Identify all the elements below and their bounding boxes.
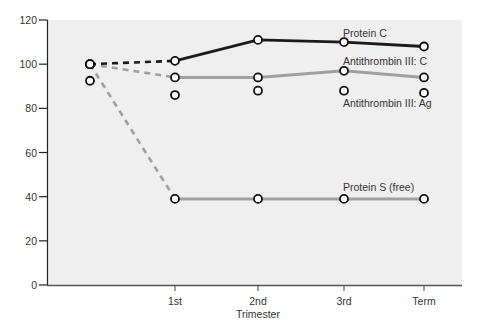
data-point — [420, 43, 428, 51]
y-tick-label: 120 — [19, 14, 37, 26]
label-protein-c: Protein C — [343, 27, 387, 39]
data-point — [171, 73, 179, 81]
x-tick-label: 1st — [168, 295, 182, 307]
x-tick-label: 2nd — [249, 295, 267, 307]
x-axis: 1st2nd3rdTerm Trimester — [47, 285, 462, 320]
y-axis: 020406080100120 — [19, 14, 47, 291]
y-tick-label: 80 — [25, 102, 37, 114]
data-point — [171, 195, 179, 203]
line-chart: 020406080100120 1st2nd3rdTerm Trimester … — [0, 0, 483, 333]
x-axis-title: Trimester — [236, 308, 280, 320]
data-point — [86, 77, 94, 85]
data-point — [420, 89, 428, 97]
y-tick-label: 20 — [25, 235, 37, 247]
data-point — [254, 195, 262, 203]
y-tick-label: 0 — [31, 279, 37, 291]
y-tick-label: 60 — [25, 147, 37, 159]
y-tick-label: 100 — [19, 58, 37, 70]
data-point — [171, 57, 179, 65]
data-point — [86, 60, 94, 68]
x-tick-label: 3rd — [336, 295, 351, 307]
data-point — [340, 87, 348, 95]
label-antithrombin-iii-c: Antithrombin III: C — [343, 55, 427, 67]
data-point — [420, 73, 428, 81]
data-point — [254, 73, 262, 81]
data-point — [340, 38, 348, 46]
data-point — [171, 91, 179, 99]
y-tick-label: 40 — [25, 191, 37, 203]
data-point — [340, 195, 348, 203]
label-protein-s-free: Protein S (free) — [343, 181, 414, 193]
data-point — [340, 67, 348, 75]
data-point — [254, 87, 262, 95]
data-point — [254, 36, 262, 44]
data-point — [420, 195, 428, 203]
x-tick-label: Term — [412, 295, 436, 307]
label-antithrombin-iii-ag: Antithrombin III: Ag — [343, 97, 432, 109]
